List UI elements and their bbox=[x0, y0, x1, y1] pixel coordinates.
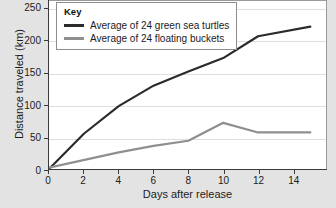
x-tick bbox=[188, 170, 189, 174]
x-axis-title: Days after release bbox=[48, 188, 327, 200]
x-tick-label: 10 bbox=[211, 175, 237, 187]
x-tick-label: 6 bbox=[140, 175, 166, 187]
legend-label-green-sea-turtles: Average of 24 green sea turtles bbox=[90, 19, 229, 32]
y-tick bbox=[44, 105, 48, 106]
legend-swatch-floating-buckets bbox=[64, 37, 84, 40]
x-tick bbox=[224, 170, 225, 174]
x-tick-label: 0 bbox=[35, 175, 61, 187]
legend-title: Key bbox=[64, 6, 229, 18]
x-tick bbox=[83, 170, 84, 174]
y-tick bbox=[44, 138, 48, 139]
x-tick bbox=[48, 170, 49, 174]
x-tick bbox=[259, 170, 260, 174]
x-tick-label: 12 bbox=[246, 175, 272, 187]
x-tick bbox=[118, 170, 119, 174]
x-tick-label: 4 bbox=[105, 175, 131, 187]
legend-swatch-green-sea-turtles bbox=[64, 24, 84, 27]
y-axis-line bbox=[48, 0, 49, 170]
x-tick-label: 8 bbox=[175, 175, 201, 187]
x-tick-label: 14 bbox=[281, 175, 307, 187]
legend-item-floating-buckets: Average of 24 floating buckets bbox=[64, 32, 229, 45]
x-tick bbox=[294, 170, 295, 174]
y-tick bbox=[44, 40, 48, 41]
x-tick bbox=[153, 170, 154, 174]
legend-label-floating-buckets: Average of 24 floating buckets bbox=[90, 32, 224, 45]
legend-item-green-sea-turtles: Average of 24 green sea turtles bbox=[64, 19, 229, 32]
line-chart-figure: 02468101214 050100150200250 Days after r… bbox=[0, 0, 336, 208]
y-tick bbox=[44, 170, 48, 171]
legend: Key Average of 24 green sea turtles Aver… bbox=[56, 2, 237, 50]
y-tick bbox=[44, 73, 48, 74]
y-tick bbox=[44, 8, 48, 9]
x-tick-label: 2 bbox=[70, 175, 96, 187]
y-axis-title: Distance traveled (km) bbox=[13, 0, 25, 169]
